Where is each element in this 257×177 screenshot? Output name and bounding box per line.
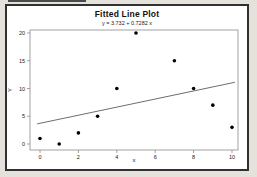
cropped-ui-edge-artifact	[8, 0, 86, 2]
screen-background: Fitted Line Plot y = 3.732 + 0.7282 x 02…	[0, 0, 257, 177]
regression-equation: y = 3.732 + 0.7282 x	[7, 20, 247, 26]
chart-title: Fitted Line Plot	[7, 9, 247, 19]
fitted-line-plot-window[interactable]: Fitted Line Plot y = 3.732 + 0.7282 x	[5, 4, 249, 171]
